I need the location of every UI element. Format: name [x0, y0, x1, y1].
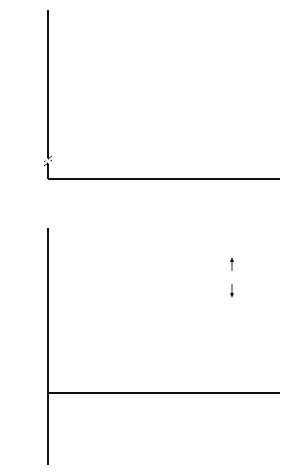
- takeoff-annotation: [230, 257, 234, 298]
- displacement-chart: [44, 10, 280, 179]
- velocity-chart: [48, 228, 280, 465]
- arrow-up-icon: [230, 257, 234, 262]
- figure: [0, 0, 292, 472]
- arrow-down-icon: [230, 293, 234, 298]
